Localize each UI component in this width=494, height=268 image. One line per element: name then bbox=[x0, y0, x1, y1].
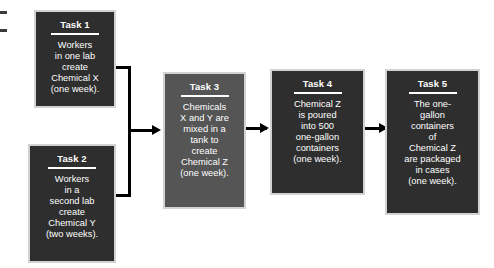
arrow-head-icon-to-task4 bbox=[260, 123, 269, 133]
task-body-task-1: Workers in one lab create Chemical X (on… bbox=[40, 40, 110, 95]
task-body-task-5: The one- gallon containers of Chemical Z… bbox=[391, 99, 474, 187]
title-underline bbox=[181, 95, 229, 97]
connector-merge-to-task3 bbox=[128, 129, 155, 132]
task-body-task-3: Chemicals X and Y are mixed in a tank to… bbox=[169, 102, 240, 179]
task-box-task-5[interactable]: Task 5 The one- gallon containers of Che… bbox=[385, 69, 480, 215]
task-box-task-2[interactable]: Task 2 Workers in a second lab create Ch… bbox=[28, 144, 116, 263]
task-title-task-5: Task 5 bbox=[391, 78, 474, 89]
task-body-task-4: Chemical Z is poured into 500 one-gallon… bbox=[276, 99, 359, 165]
diagram-canvas: Task 1 Workers in one lab create Chemica… bbox=[0, 0, 494, 268]
task-title-task-4: Task 4 bbox=[276, 78, 359, 89]
task-title-task-3: Task 3 bbox=[169, 81, 240, 92]
arrow-head-icon-to-task3 bbox=[152, 125, 161, 135]
title-underline bbox=[409, 92, 457, 94]
task-body-task-2: Workers in a second lab create Chemical … bbox=[34, 174, 110, 240]
task-box-task-4[interactable]: Task 4 Chemical Z is poured into 500 one… bbox=[270, 69, 365, 195]
title-underline bbox=[51, 33, 99, 35]
margin-tick-icon bbox=[0, 29, 7, 32]
task-box-task-1[interactable]: Task 1 Workers in one lab create Chemica… bbox=[34, 10, 116, 108]
title-underline bbox=[294, 92, 342, 94]
task-title-task-2: Task 2 bbox=[34, 153, 110, 164]
title-underline bbox=[48, 167, 96, 169]
task-box-task-3[interactable]: Task 3 Chemicals X and Y are mixed in a … bbox=[163, 72, 246, 209]
task-title-task-1: Task 1 bbox=[40, 19, 110, 30]
margin-tick-icon bbox=[0, 11, 7, 14]
